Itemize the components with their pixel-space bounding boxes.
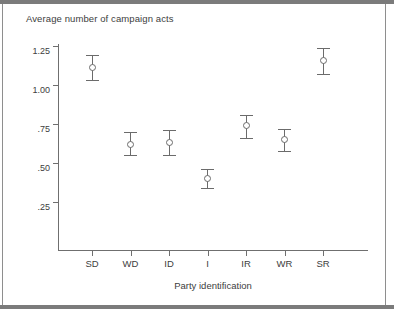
data-point-id xyxy=(166,139,173,146)
x-tick-mark xyxy=(285,251,286,256)
x-tick-mark xyxy=(92,251,93,256)
x-tick-mark xyxy=(246,251,247,256)
frame-left-rule xyxy=(2,4,3,305)
x-tick-mark xyxy=(169,251,170,256)
y-tick-label: 1.25 xyxy=(14,40,50,52)
x-tick-label-wd: WD xyxy=(111,258,151,269)
frame-top-rule xyxy=(0,0,394,4)
x-tick-label-id: ID xyxy=(149,258,189,269)
error-bar-cap-lower xyxy=(163,155,176,156)
error-bar-cap-upper xyxy=(317,48,330,49)
error-bar-cap-lower xyxy=(86,80,99,81)
error-bar-cap-upper xyxy=(240,115,253,116)
data-point-sr xyxy=(320,57,327,64)
x-tick-label-wr: WR xyxy=(265,258,305,269)
error-bar-cap-lower xyxy=(124,155,137,156)
x-tick-label-sr: SR xyxy=(303,258,343,269)
error-bar-cap-lower xyxy=(240,138,253,139)
x-tick-label-i: I xyxy=(188,258,228,269)
y-tick-mark xyxy=(53,85,58,86)
y-tick-label-text: 1.25 xyxy=(32,46,50,56)
data-point-sd xyxy=(89,64,96,71)
data-point-wd xyxy=(127,141,134,148)
chart-figure: Average number of campaign acts 1.251.00… xyxy=(0,0,394,313)
x-axis-line xyxy=(58,250,368,251)
x-axis-title: Party identification xyxy=(58,280,368,291)
x-tick-mark xyxy=(208,251,209,256)
y-tick-mark xyxy=(53,46,58,47)
y-tick-mark xyxy=(53,163,58,164)
error-bar-cap-lower xyxy=(317,74,330,75)
x-tick-label-sd: SD xyxy=(72,258,112,269)
data-point-wr xyxy=(281,136,288,143)
y-tick-label-text: 1.00 xyxy=(32,85,50,95)
y-tick-label-text: .75 xyxy=(37,124,50,134)
data-point-ir xyxy=(243,122,250,129)
y-tick-mark xyxy=(53,124,58,125)
error-bar-cap-lower xyxy=(278,151,291,152)
x-tick-mark xyxy=(323,251,324,256)
x-tick-label-ir: IR xyxy=(226,258,266,269)
frame-bottom-rule xyxy=(0,305,394,309)
y-tick-label-text: .25 xyxy=(37,202,50,212)
error-bar-cap-lower xyxy=(201,188,214,189)
x-tick-mark xyxy=(131,251,132,256)
frame-right-rule xyxy=(385,4,386,305)
error-bar-cap-upper xyxy=(278,129,291,130)
y-tick-label: .25 xyxy=(14,196,50,208)
error-bar-cap-upper xyxy=(163,130,176,131)
error-bar-cap-upper xyxy=(86,55,99,56)
y-tick-mark xyxy=(53,202,58,203)
y-tick-label: .50 xyxy=(14,157,50,169)
error-bar-cap-upper xyxy=(124,132,137,133)
y-tick-label: 1.00 xyxy=(14,79,50,91)
data-point-i xyxy=(204,175,211,182)
y-tick-label-text: .50 xyxy=(37,163,50,173)
y-axis-line xyxy=(58,44,59,251)
error-bar-cap-upper xyxy=(201,169,214,170)
y-tick-label: .75 xyxy=(14,118,50,130)
chart-title: Average number of campaign acts xyxy=(26,13,174,24)
